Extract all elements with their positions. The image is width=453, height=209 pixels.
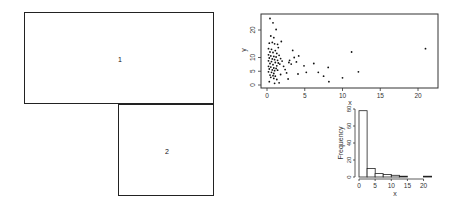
histogram-y-tick-label: 80: [346, 105, 352, 112]
scatter-point: [288, 62, 290, 64]
scatter-point: [271, 42, 273, 44]
scatter-point: [271, 61, 273, 63]
scatter-point: [317, 71, 319, 73]
scatter-point: [268, 71, 270, 73]
scatter-point: [269, 74, 271, 76]
scatter-points: [268, 18, 427, 85]
scatter-point: [272, 52, 274, 54]
scatter-point: [275, 56, 277, 58]
scatter-point: [268, 57, 270, 59]
scatter-point: [277, 59, 279, 61]
scatter-point: [271, 58, 273, 60]
scatter-point: [273, 56, 275, 58]
histogram-y-tick-label: 0: [346, 175, 352, 179]
scatter-x-tick-label: 20: [414, 92, 422, 99]
histogram-y-tick-label: 60: [346, 122, 352, 129]
histogram-x-tick-label: 20: [420, 182, 428, 189]
scatter-point: [272, 75, 274, 77]
scatter-point: [292, 50, 294, 52]
scatter-point: [297, 73, 299, 75]
scatter-point: [270, 66, 272, 68]
histogram-x-axis: 05101520: [357, 179, 427, 189]
scatter-point: [268, 60, 270, 62]
scatter-frame: [261, 14, 438, 88]
scatter-point: [268, 54, 270, 56]
scatter-point: [296, 61, 298, 63]
histogram-x-tick-label: 15: [404, 182, 412, 189]
histogram: 05101520 020406080 x Frequency: [337, 105, 432, 197]
histogram-x-tick-label: 10: [388, 182, 396, 189]
scatter-point: [273, 37, 275, 39]
scatter-point: [286, 72, 288, 74]
scatter-point: [425, 48, 427, 50]
scatter-point: [328, 81, 330, 83]
scatter-point: [276, 53, 278, 55]
scatter-point: [268, 42, 270, 44]
scatter-point: [272, 22, 274, 24]
scatter-point: [298, 55, 300, 57]
histogram-y-tick-label: 40: [346, 139, 352, 146]
scatter-x-axis: 05101520: [265, 88, 422, 99]
scatter-point: [277, 43, 279, 45]
histogram-x-tick-label: 5: [373, 182, 377, 189]
histogram-y-axis: 020406080: [346, 105, 355, 179]
scatter-point: [305, 71, 307, 73]
scatter-point: [277, 62, 279, 64]
histogram-bar: [391, 175, 399, 177]
scatter-y-axis: 051020: [249, 26, 261, 87]
scatter-point: [342, 77, 344, 79]
scatter-point: [274, 82, 276, 84]
scatter-point: [277, 47, 279, 49]
scatter-point: [274, 59, 276, 61]
scatter-point: [272, 64, 274, 66]
scatter-point: [284, 69, 286, 71]
scatter-x-tick-label: 0: [265, 92, 269, 99]
scatter-point: [270, 35, 272, 37]
histogram-x-tick-label: 0: [357, 182, 361, 189]
scatter-point: [275, 68, 277, 70]
scatter-x-label: x: [348, 99, 352, 106]
scatter-point: [273, 73, 275, 75]
histogram-bar: [359, 111, 367, 177]
scatter-point: [268, 48, 270, 50]
scatter-point: [327, 67, 329, 69]
histogram-bars: [359, 111, 432, 177]
scatter-point: [270, 76, 272, 78]
scatter-point: [279, 63, 281, 65]
scatter-point: [269, 63, 271, 65]
histogram-bar: [367, 169, 375, 178]
scatter-y-tick-label: 5: [249, 69, 256, 73]
scatter-point: [275, 29, 277, 31]
scatter-x-tick-label: 10: [339, 92, 347, 99]
scatter-point: [271, 71, 273, 73]
scatter-y-tick-label: 10: [249, 54, 256, 62]
scatter-y-tick-label: 20: [249, 26, 256, 34]
scatter-point: [269, 51, 271, 53]
scatter-point: [271, 48, 273, 50]
scatter-y-tick-label: 0: [249, 83, 256, 87]
scatter-point: [269, 18, 271, 20]
scatter-point: [274, 70, 276, 72]
scatter-y-label: y: [240, 48, 248, 52]
scatter-point: [278, 54, 280, 56]
scatter-point: [268, 65, 270, 67]
scatter-point: [273, 67, 275, 69]
scatter-point: [280, 74, 282, 76]
scatter-x-tick-label: 15: [377, 92, 385, 99]
scatter-point: [313, 63, 315, 65]
scatter-x-tick-label: 5: [303, 92, 307, 99]
histogram-x-label: x: [393, 190, 397, 197]
plots-canvas: 05101520 051020 x y 05101520 020406080 x…: [0, 0, 453, 209]
scatter-point: [277, 69, 279, 71]
scatter-point: [358, 71, 360, 73]
scatter-point: [323, 75, 325, 77]
histogram-bar: [399, 176, 407, 177]
scatter-point: [276, 65, 278, 67]
scatter-plot: 05101520 051020 x y: [240, 14, 438, 106]
histogram-bar: [383, 174, 391, 177]
scatter-point: [278, 82, 280, 84]
histogram-bar: [424, 176, 432, 177]
scatter-point: [274, 75, 276, 77]
scatter-point: [280, 41, 282, 43]
scatter-point: [274, 43, 276, 45]
